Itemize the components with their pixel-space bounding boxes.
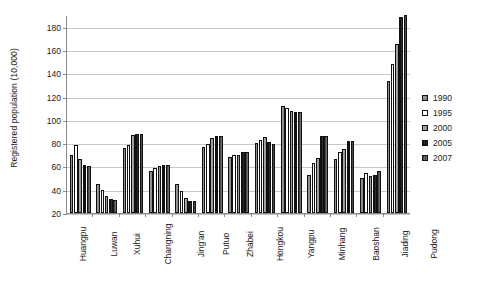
x-axis-label: Minhang: [326, 216, 359, 282]
bar-group: [384, 16, 410, 213]
x-axis-label-text: Hongkou: [275, 227, 285, 261]
bar: [369, 176, 373, 213]
bar: [123, 148, 127, 213]
bar: [166, 165, 170, 213]
bar: [259, 140, 263, 213]
bar: [184, 198, 188, 213]
x-axis-label: Yangpu: [297, 216, 326, 282]
bar: [290, 111, 294, 213]
bar: [188, 201, 192, 213]
y-tick-label: 120: [47, 93, 61, 103]
legend-label: 1990: [433, 94, 452, 103]
bar: [70, 155, 74, 213]
x-axis-label-text: Baoshan: [370, 227, 380, 261]
bar: [377, 171, 381, 213]
bar: [180, 191, 184, 213]
bar: [215, 136, 219, 213]
legend-label: 2005: [433, 139, 452, 148]
bar: [294, 112, 298, 213]
x-axis-labels: HuangpuLuwanXuhuiChangningJing'anPutuoZh…: [66, 216, 410, 282]
bar: [391, 64, 395, 213]
bar: [373, 175, 377, 213]
bar: [360, 178, 364, 213]
x-axis-label: Jing'an: [188, 216, 215, 282]
x-axis-label-text: Zhabei: [245, 231, 255, 257]
bar-group: [93, 16, 119, 213]
legend-label: 1995: [433, 109, 452, 118]
legend-item: 2007: [422, 154, 452, 163]
bar: [232, 155, 236, 213]
bar: [324, 136, 328, 213]
bar: [210, 138, 214, 213]
bar-group: [305, 16, 331, 213]
bar: [307, 175, 311, 213]
bar: [387, 81, 391, 213]
bar: [285, 108, 289, 213]
y-tick-label: 160: [47, 46, 61, 56]
bar: [298, 112, 302, 213]
bar: [245, 152, 249, 213]
y-tick-label: 180: [47, 23, 61, 33]
bar: [263, 137, 267, 213]
bar-group: [120, 16, 146, 213]
x-axis-label-text: Minhang: [337, 228, 347, 261]
x-axis-label: Jiading: [392, 216, 419, 282]
bar: [113, 200, 117, 213]
legend-swatch: [422, 125, 428, 131]
x-axis-label-text: Huangpu: [78, 227, 88, 262]
plot-area: 20406080100120140160180: [66, 16, 410, 214]
x-axis-label-text: Jiading: [401, 231, 411, 258]
legend-label: 2000: [433, 124, 452, 133]
x-axis-label: Huangpu: [66, 216, 101, 282]
y-tick-label: 80: [52, 139, 61, 149]
bar-group: [173, 16, 199, 213]
y-axis-title: Registered population (10,000): [6, 0, 22, 215]
bar: [127, 145, 131, 213]
legend-item: 1990: [422, 94, 452, 103]
bar: [175, 184, 179, 213]
x-axis-label: Xuhui: [126, 216, 148, 282]
bar: [320, 136, 324, 213]
legend: 19901995200020052007: [422, 94, 452, 163]
bar: [193, 201, 197, 213]
x-axis-label-text: Changning: [163, 223, 173, 264]
x-axis-label: Luwan: [101, 216, 126, 282]
bar-group: [357, 16, 383, 213]
bar: [237, 155, 241, 213]
bar-group: [146, 16, 172, 213]
bar: [109, 199, 113, 213]
x-axis-label: Baoshan: [359, 216, 393, 282]
x-axis-label: Changning: [147, 216, 188, 282]
bar: [101, 190, 105, 213]
bar: [140, 134, 144, 213]
bar: [153, 168, 157, 213]
bar: [74, 145, 78, 213]
x-axis-label: Pudong: [419, 216, 448, 282]
bar: [78, 159, 82, 213]
bar-group: [225, 16, 251, 213]
legend-swatch: [422, 95, 428, 101]
bar-group: [278, 16, 304, 213]
bar: [347, 141, 351, 213]
x-axis-label-text: Luwan: [108, 231, 118, 256]
bar: [316, 158, 320, 213]
y-tick-mark: [63, 214, 67, 215]
bar: [162, 165, 166, 213]
bar-group: [331, 16, 357, 213]
x-axis-label-text: Pudong: [429, 229, 439, 258]
bar: [105, 196, 109, 213]
x-axis-label-text: Xuhui: [131, 233, 141, 255]
bar: [241, 152, 245, 213]
bar-chart: Registered population (10,000) 204060801…: [0, 0, 485, 284]
bar: [342, 149, 346, 213]
bar: [131, 135, 135, 213]
y-tick-label: 20: [52, 209, 61, 219]
bar: [87, 166, 91, 213]
bar: [281, 106, 285, 213]
legend-swatch: [422, 110, 428, 116]
x-axis-label-text: Putuo: [221, 233, 231, 255]
bar: [202, 147, 206, 213]
legend-label: 2007: [433, 154, 452, 163]
x-axis-label-text: Jing'an: [197, 231, 207, 258]
x-axis-label-text: Yangpu: [307, 230, 317, 259]
